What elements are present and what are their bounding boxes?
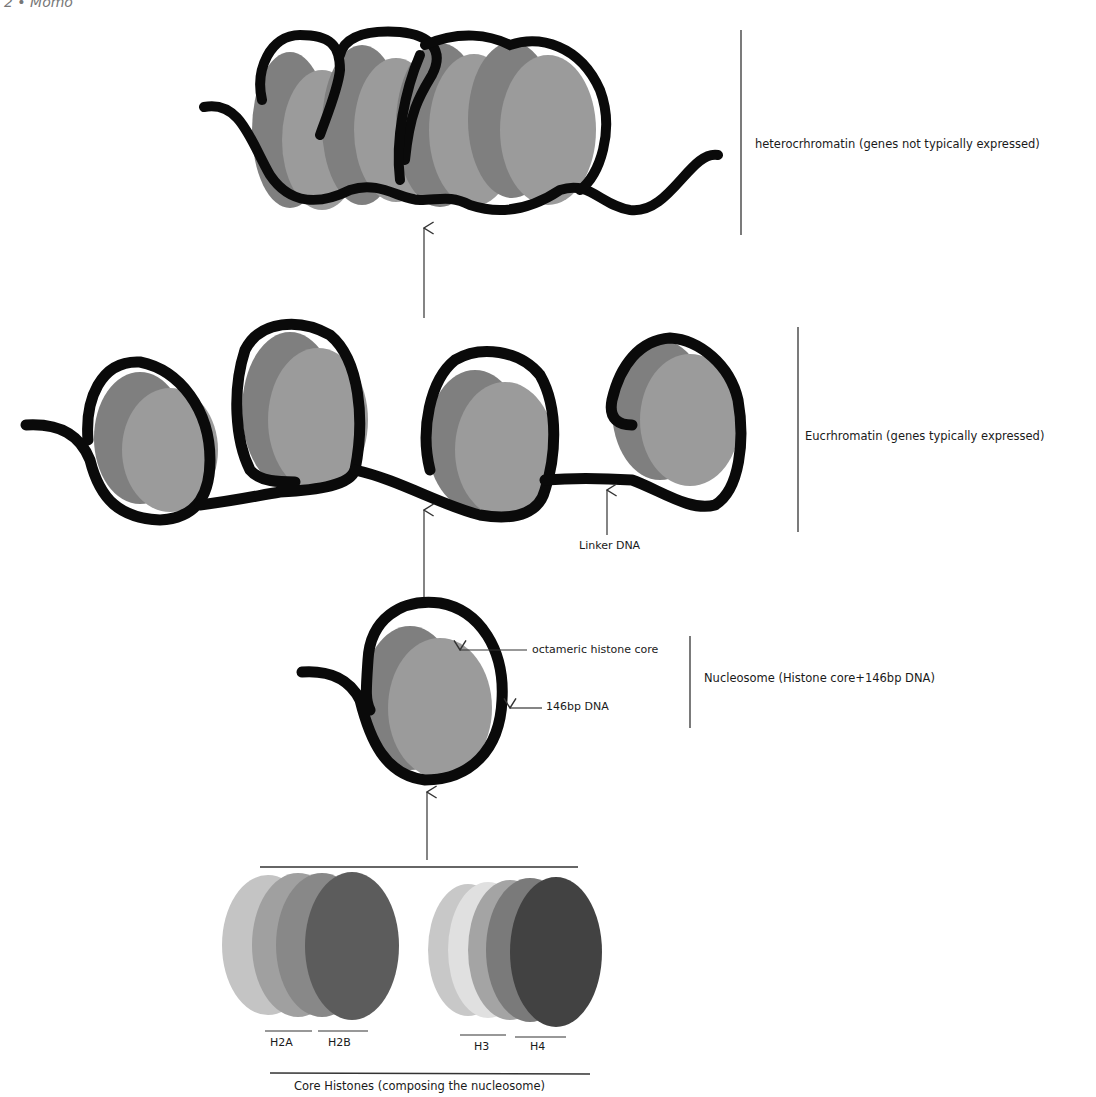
h2a-label: H2A (270, 1036, 293, 1050)
euchromatin-fiber (26, 324, 741, 520)
linker-dna-label: Linker DNA (579, 539, 640, 553)
histone-pair-h2a-h2b (222, 872, 399, 1020)
heterochromatin-label: heterocrhromatin (genes not typically ex… (755, 137, 1040, 151)
histone-core-label: octameric histone core (532, 643, 658, 657)
histone-pair-h3-h4 (428, 877, 602, 1027)
nucleosome-label: Nucleosome (Histone core+146bp DNA) (704, 671, 935, 685)
euchromatin-label: Eucrhromatin (genes typically expressed) (805, 429, 1044, 443)
h2b-label: H2B (328, 1036, 351, 1050)
single-nucleosome (302, 602, 502, 780)
divider-line (270, 1073, 590, 1074)
core-histones-label: Core Histones (composing the nucleosome) (294, 1079, 545, 1093)
dna-146bp-label: 146bp DNA (546, 700, 609, 714)
nucleosome-icon (427, 370, 555, 518)
heterochromatin-fiber (204, 32, 718, 211)
h3-label: H3 (474, 1040, 489, 1054)
histone-disc-icon (468, 42, 596, 205)
chromatin-diagram (0, 0, 1096, 1097)
h4-label: H4 (530, 1040, 545, 1054)
